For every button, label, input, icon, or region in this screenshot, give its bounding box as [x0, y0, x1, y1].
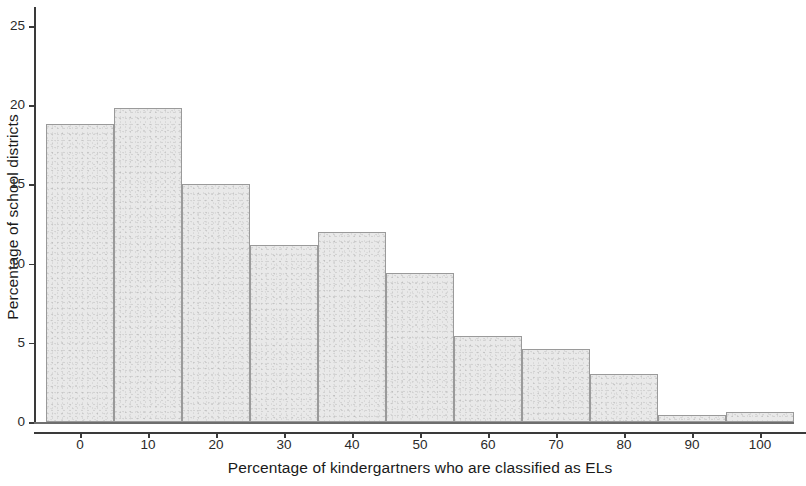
y-axis-title: Percentage of school districts: [2, 2, 24, 432]
histogram-bar: [182, 184, 250, 422]
x-axis-tick-label: 70: [536, 437, 576, 452]
y-axis-tick-label: 25: [0, 19, 25, 33]
histogram-bar: [114, 108, 182, 422]
x-axis-tick-label: 80: [604, 437, 644, 452]
x-axis-tick-label: 20: [196, 437, 236, 452]
x-axis-tick-label: 100: [740, 437, 780, 452]
x-axis-tick-label: 10: [128, 437, 168, 452]
y-axis-tick: [29, 264, 34, 266]
y-axis-tick: [29, 26, 34, 28]
histogram-bar: [250, 245, 318, 422]
x-axis-tick-label: 30: [264, 437, 304, 452]
y-axis-tick: [29, 105, 34, 107]
histogram-bar: [46, 124, 114, 422]
y-axis-tick-label: 0: [0, 415, 25, 429]
y-axis-line: [34, 7, 36, 422]
x-axis-tick-label: 40: [332, 437, 372, 452]
histogram-bar: [658, 415, 726, 422]
x-axis-tick-label: 0: [60, 437, 100, 452]
histogram-bar: [386, 273, 454, 422]
y-axis-tick-label: 20: [0, 98, 25, 112]
y-axis-tick: [29, 343, 34, 345]
histogram-bar: [454, 336, 522, 422]
x-axis-tick-label: 90: [672, 437, 712, 452]
y-axis-tick-label: 10: [0, 257, 25, 271]
y-axis-tick: [29, 422, 34, 424]
y-axis-tick-label: 5: [0, 336, 25, 350]
histogram-bar: [590, 374, 658, 422]
x-axis-tick-label: 60: [468, 437, 508, 452]
histogram-bar: [726, 412, 794, 422]
y-axis-tick: [29, 184, 34, 186]
y-axis-tick-label: 15: [0, 177, 25, 191]
histogram-bar: [318, 232, 386, 422]
x-axis-tick-label: 50: [400, 437, 440, 452]
x-axis-title: Percentage of kindergartners who are cla…: [80, 459, 760, 477]
baseline: [34, 422, 794, 424]
histogram-bar: [522, 349, 590, 422]
